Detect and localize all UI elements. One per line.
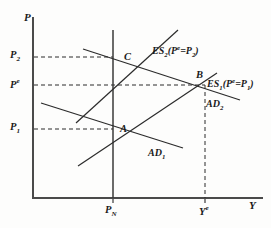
- curve-label-es2: ES2(Pe=P2): [152, 45, 199, 59]
- y-tick-p1: P1: [10, 122, 20, 135]
- curve-label-ad2: AD2: [206, 99, 223, 112]
- x-tick-pn: PN: [105, 205, 117, 218]
- curves-group: [41, 30, 240, 198]
- axes-group: [33, 18, 262, 198]
- y-tick-p2: P2: [10, 50, 20, 63]
- x-tick-ye: Ye: [199, 205, 209, 217]
- x-axis-label: Y: [249, 200, 256, 211]
- figure-canvas: P Y P2 Pe P1 PN Ye A B C ES2(Pe=P2) ES1(…: [0, 0, 271, 228]
- curve-label-es1: ES1(Pe=P1): [207, 78, 254, 92]
- point-label-c: C: [124, 52, 131, 63]
- y-tick-pe: Pe: [10, 78, 20, 90]
- point-label-b: B: [196, 70, 203, 81]
- y-axis-label: P: [24, 12, 31, 23]
- point-label-a: A: [120, 124, 127, 135]
- diagram-svg: [0, 0, 271, 228]
- curve-label-ad1: AD1: [148, 148, 165, 161]
